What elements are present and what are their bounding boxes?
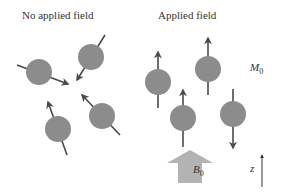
random-spins-group: [17, 35, 120, 155]
spin-ball-icon: [220, 101, 246, 127]
applied-field-arrow-icon: [167, 150, 213, 183]
spin: [82, 95, 120, 135]
spin: [220, 89, 246, 148]
magnetization-label: M0: [250, 61, 263, 76]
left-panel-title: No applied field: [22, 9, 93, 21]
spin: [170, 90, 196, 147]
field-label: B0: [193, 163, 204, 178]
spin-ball-icon: [78, 44, 104, 70]
z-axis-label: z: [250, 162, 254, 174]
spin-ball-icon: [45, 116, 71, 142]
spin-ball-icon: [26, 59, 52, 85]
spin: [77, 35, 105, 80]
spin-ball-icon: [145, 69, 171, 95]
spin-ball-icon: [195, 56, 221, 82]
spin: [17, 59, 68, 85]
right-panel-title: Applied field: [158, 9, 216, 21]
spin: [195, 38, 221, 95]
spin-ball-icon: [170, 105, 196, 131]
spin: [145, 52, 171, 108]
spin: [45, 102, 71, 155]
aligned-spins-group: [145, 38, 246, 148]
spin-diagram: [0, 0, 282, 193]
spin-ball-icon: [89, 103, 115, 129]
